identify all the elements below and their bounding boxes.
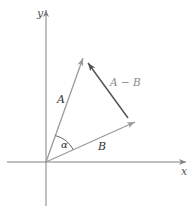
vector-diagram: y x A B α A − B xyxy=(0,0,196,212)
vector-b-arrow xyxy=(46,122,135,162)
vector-a-minus-b-arrow xyxy=(88,63,128,118)
x-axis-label: x xyxy=(181,165,188,178)
vector-b-label: B xyxy=(97,140,106,153)
y-axis-label: y xyxy=(36,7,44,20)
angle-alpha-label: α xyxy=(61,139,68,150)
vector-a-label: A xyxy=(56,93,65,106)
vector-a-minus-b-label: A − B xyxy=(109,76,141,88)
